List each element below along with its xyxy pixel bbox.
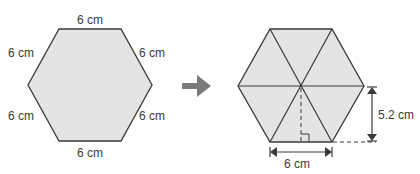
label-upper-left-side: 6 cm bbox=[8, 46, 34, 60]
label-lower-right-side: 6 cm bbox=[139, 109, 165, 123]
left-hexagon bbox=[28, 29, 152, 141]
label-bottom-side: 6 cm bbox=[77, 146, 103, 160]
hexagon-area-diagram: 6 cm 6 cm 6 cm 6 cm 6 cm 6 cm 5.2 cm 6 bbox=[0, 0, 420, 174]
label-base: 6 cm bbox=[284, 157, 310, 171]
base-dimension-arrow bbox=[270, 147, 332, 157]
label-height: 5.2 cm bbox=[378, 108, 414, 122]
label-lower-left-side: 6 cm bbox=[8, 109, 34, 123]
label-upper-right-side: 6 cm bbox=[139, 46, 165, 60]
label-top-side: 6 cm bbox=[77, 13, 103, 27]
arrow-right-icon bbox=[182, 75, 211, 97]
height-dimension-arrow bbox=[367, 87, 377, 141]
right-hexagon bbox=[238, 29, 364, 142]
